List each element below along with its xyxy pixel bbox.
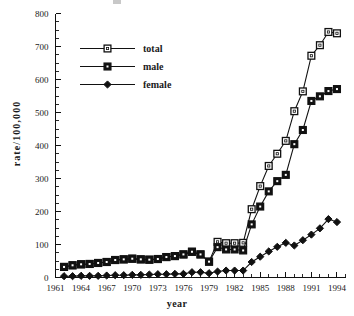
marker-filled-diamond <box>60 273 67 280</box>
marker-filled-diamond <box>222 267 229 274</box>
marker-filled-diamond <box>214 268 221 275</box>
marker-filled-diamond <box>188 269 195 276</box>
marker-filled-diamond <box>171 270 178 277</box>
legend-entry-total: total <box>80 43 163 54</box>
marker-filled-square-core <box>131 258 133 260</box>
marker-filled-diamond <box>180 270 187 277</box>
chart-legend: totalmalefemale <box>80 43 172 90</box>
y-tick-label: 0 <box>44 273 49 283</box>
marker-filled-square-core <box>327 90 329 92</box>
marker-filled-square-core <box>259 206 261 208</box>
marker-open-square-core <box>268 165 270 167</box>
series-line-male <box>64 89 337 267</box>
marker-filled-diamond <box>77 272 84 279</box>
marker-filled-square-core <box>114 259 116 261</box>
marker-filled-square-core <box>157 258 159 260</box>
y-tick-label: 200 <box>35 207 49 217</box>
y-tick-label: 100 <box>35 240 49 250</box>
line-chart-plot-area: 0100200300400500600700800 19611964196719… <box>0 0 354 316</box>
legend-entry-female: female <box>80 79 172 90</box>
marker-filled-diamond <box>274 243 281 250</box>
marker-filled-square-core <box>302 129 304 131</box>
y-axis: 0100200300400500600700800 <box>35 9 61 283</box>
marker-filled-square-core <box>225 248 227 250</box>
marker-open-square-core <box>225 242 227 244</box>
x-tick-label: 1991 <box>302 283 320 293</box>
y-tick-label: 400 <box>35 141 49 151</box>
marker-filled-diamond <box>163 271 170 278</box>
marker-open-square-core <box>242 242 244 244</box>
marker-filled-diamond <box>69 273 76 280</box>
marker-open-square-core <box>319 44 321 46</box>
x-tick-label: 1988 <box>277 283 296 293</box>
x-tick-label: 1964 <box>72 283 91 293</box>
marker-open-square-core <box>259 185 261 187</box>
marker-open-square-core <box>327 31 329 33</box>
marker-filled-square-core <box>268 190 270 192</box>
marker-filled-square-core <box>319 95 321 97</box>
marker-filled-square-core <box>285 174 287 176</box>
marker-filled-square-core <box>336 88 338 90</box>
marker-filled-square-core <box>242 249 244 251</box>
marker-filled-square-core <box>140 258 142 260</box>
x-tick-label: 1994 <box>328 283 347 293</box>
marker-filled-square-core <box>293 143 295 145</box>
marker-filled-square-core <box>276 180 278 182</box>
marker-filled-square-core <box>182 253 184 255</box>
x-tick-label: 1982 <box>226 283 244 293</box>
marker-open-square-core <box>234 242 236 244</box>
x-tick-label: 1961 <box>47 283 65 293</box>
marker-filled-diamond <box>257 253 264 260</box>
chart-figure: rate/100,000 year 0100200300400500600700… <box>0 0 354 316</box>
marker-filled-square-core <box>97 262 99 264</box>
marker-filled-square-core <box>107 66 109 68</box>
marker-filled-square-core <box>310 100 312 102</box>
marker-filled-diamond <box>86 272 93 279</box>
marker-filled-square-core <box>165 256 167 258</box>
marker-open-square-core <box>251 208 253 210</box>
marker-filled-square-core <box>191 251 193 253</box>
marker-filled-diamond <box>291 242 298 249</box>
y-tick-label: 700 <box>35 42 49 52</box>
marker-filled-square-core <box>89 263 91 265</box>
legend-label: male <box>143 61 164 72</box>
marker-filled-diamond <box>205 270 212 277</box>
marker-filled-square-core <box>72 264 74 266</box>
marker-filled-square-core <box>217 246 219 248</box>
marker-filled-diamond <box>333 218 340 225</box>
marker-filled-square-core <box>251 223 253 225</box>
series-total <box>61 29 341 271</box>
marker-open-square-core <box>310 55 312 57</box>
x-tick-label: 1979 <box>200 283 219 293</box>
marker-open-square-core <box>336 32 338 34</box>
marker-filled-square-core <box>200 253 202 255</box>
marker-filled-square-core <box>123 258 125 260</box>
x-tick-label: 1970 <box>123 283 142 293</box>
marker-filled-diamond <box>197 269 204 276</box>
marker-filled-diamond <box>154 271 161 278</box>
series-female <box>60 215 340 279</box>
marker-filled-square-core <box>80 263 82 265</box>
marker-filled-square-core <box>106 261 108 263</box>
marker-open-square-core <box>285 140 287 142</box>
marker-filled-diamond <box>299 237 306 244</box>
marker-filled-square-core <box>234 248 236 250</box>
x-tick-label: 1976 <box>174 283 193 293</box>
marker-open-square-core <box>302 90 304 92</box>
legend-entry-male: male <box>80 61 164 72</box>
marker-open-square-core <box>293 110 295 112</box>
marker-filled-square-core <box>174 255 176 257</box>
marker-filled-diamond <box>104 81 111 88</box>
y-tick-label: 800 <box>35 9 49 19</box>
top-edge-artifact <box>113 0 121 4</box>
marker-filled-diamond <box>231 267 238 274</box>
y-tick-label: 600 <box>35 75 49 85</box>
marker-filled-square-core <box>148 259 150 261</box>
x-tick-label: 1985 <box>251 283 270 293</box>
marker-open-square-core <box>216 241 218 243</box>
marker-filled-square-core <box>208 261 210 263</box>
legend-label: female <box>143 79 172 90</box>
marker-filled-diamond <box>95 272 102 279</box>
marker-open-square-core <box>276 153 278 155</box>
x-axis-title: year <box>0 298 354 309</box>
